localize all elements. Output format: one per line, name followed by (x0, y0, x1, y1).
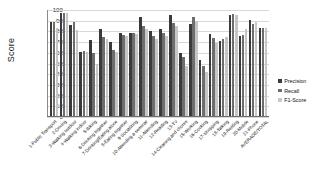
legend-item[interactable]: F1-Score (278, 96, 333, 104)
legend-item[interactable]: Recall (278, 87, 333, 95)
bar-group (198, 10, 208, 116)
bar-group (129, 10, 139, 116)
bar (265, 28, 268, 116)
bar-group (149, 10, 159, 116)
x-axis-tick-labels: 1-Public Transport2-Driving3-Walking out… (47, 119, 269, 175)
bar-group (188, 10, 198, 116)
bar-group (248, 10, 258, 116)
legend-item[interactable]: Precision (278, 77, 333, 85)
x-axis-line (47, 116, 269, 117)
bar-group (119, 10, 129, 116)
plot-area (47, 10, 269, 117)
chart-legend: PrecisionRecallF1-Score (278, 77, 333, 106)
bar-group (139, 10, 149, 116)
bar-group (99, 10, 109, 116)
bar-group (178, 10, 188, 116)
bar-group (109, 10, 119, 116)
bar-group (89, 10, 99, 116)
legend-swatch-icon (278, 89, 282, 93)
bar-group (59, 10, 69, 116)
bar-group (238, 10, 248, 116)
y-axis-title: Score (6, 20, 16, 80)
legend-label: F1-Score (284, 97, 306, 103)
legend-swatch-icon (278, 98, 282, 102)
bar-group (158, 10, 168, 116)
bar-group (49, 10, 59, 116)
bar-group (218, 10, 228, 116)
bar-group (79, 10, 89, 116)
bar-group (69, 10, 79, 116)
bar-chart: Score 1009080706050403020100 1-Public Tr… (0, 0, 335, 177)
bar-groups (48, 10, 269, 116)
bar-group (258, 10, 268, 116)
bar-group (228, 10, 238, 116)
legend-swatch-icon (278, 79, 282, 83)
legend-label: Precision (284, 78, 306, 84)
bar-group (168, 10, 178, 116)
legend-label: Recall (284, 88, 299, 94)
bar-group (208, 10, 218, 116)
